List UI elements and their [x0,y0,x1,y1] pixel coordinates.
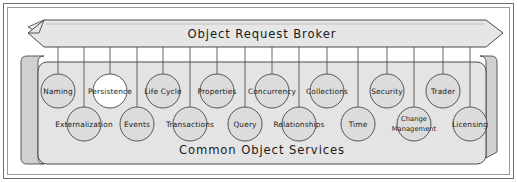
service-node-naming[interactable]: Naming [41,74,75,108]
service-node-label-line2: Management [392,125,437,133]
service-node-query[interactable]: Query [228,107,262,141]
service-node-label: Concurrency [248,87,297,96]
service-node-label: Naming [43,87,73,96]
service-node-label: Events [124,120,150,129]
service-node-label: Collections [306,87,348,96]
service-node-label: Transactions [165,120,214,129]
service-node-trader[interactable]: Trader [426,74,460,108]
service-node-label-line1: Change [401,115,427,123]
service-node-label: Persistence [88,87,132,96]
service-node-label: Query [233,120,257,129]
service-node-label: Licensing [452,120,488,129]
service-node-time[interactable]: Time [341,107,375,141]
service-node-label: Security [371,87,403,96]
service-node-security[interactable]: Security [370,74,404,108]
service-node-label: Trader [430,87,456,96]
service-node-label: Properties [198,87,237,96]
service-node-label: Relationships [273,120,324,129]
service-node-licensing[interactable]: Licensing [452,107,488,141]
diagram-canvas: Object Request Broker Common Object Serv… [0,0,517,182]
orb-title: Object Request Broker [188,27,337,41]
service-node-label: Life Cycle [144,87,182,96]
service-node-events[interactable]: Events [120,107,154,141]
corba-architecture-diagram: Object Request Broker Common Object Serv… [0,0,517,182]
services-box-title: Common Object Services [179,143,345,157]
service-node-label: Time [348,120,368,129]
service-node-label: Externalization [55,120,113,129]
